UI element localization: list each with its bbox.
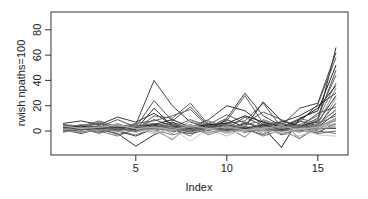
x-axis: 51015 [133,155,324,174]
x-tick-label: 10 [221,162,233,174]
x-tick-label: 5 [133,162,139,174]
line-chart: 020406080 51015 Index rwish npaths=100 [0,0,368,199]
y-axis: 020406080 [31,24,51,134]
y-tick-label: 60 [31,49,43,61]
y-tick-label: 0 [31,128,43,134]
plot-frame [51,12,348,155]
y-tick-label: 40 [31,74,43,86]
y-tick-label: 20 [31,100,43,112]
y-tick-label: 80 [31,24,43,36]
x-tick-label: 15 [312,162,324,174]
y-axis-label: rwish npaths=100 [15,40,27,127]
x-axis-label: Index [186,181,213,193]
series-lines [63,48,336,148]
